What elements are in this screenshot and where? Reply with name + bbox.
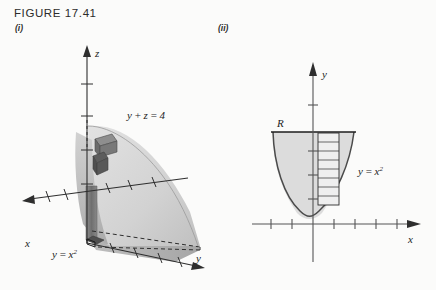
panel-ii-diagram: y x R y = x2 xyxy=(0,0,436,290)
x-axis-label: x xyxy=(407,233,413,245)
x-axis xyxy=(252,219,421,229)
y-axis-label: y xyxy=(321,68,327,80)
curve-equation-label: y = x2 xyxy=(357,165,384,177)
vertical-strip xyxy=(318,133,339,205)
region-label-R: R xyxy=(276,117,284,129)
figure-container: FIGURE 17.41 (i) (ii) xyxy=(0,0,436,290)
